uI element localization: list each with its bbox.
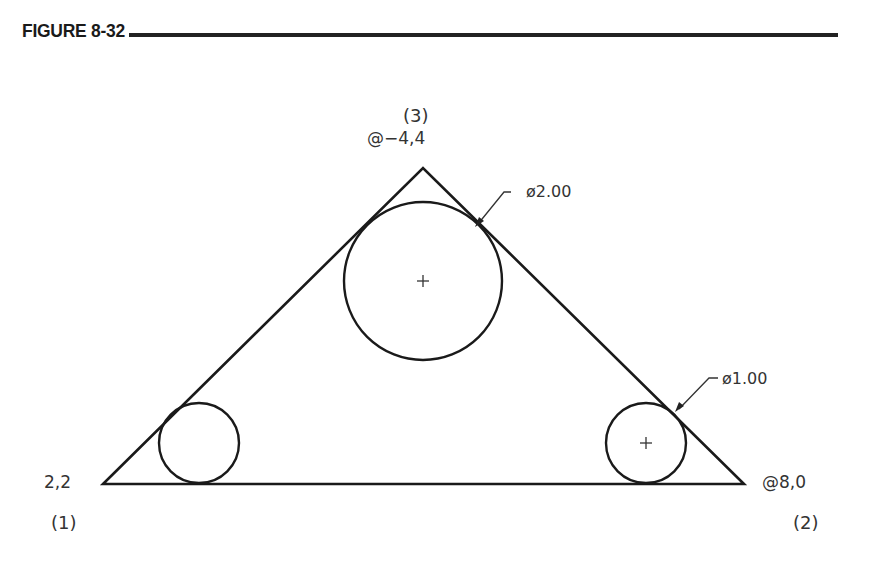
left-small-circle <box>159 403 239 483</box>
triangle <box>103 168 744 484</box>
drawing-canvas <box>0 0 878 583</box>
point1-number: (1) <box>51 512 77 533</box>
arrowhead-small-icon <box>675 402 684 412</box>
point2-number: (2) <box>793 512 819 533</box>
leader-small <box>679 378 718 409</box>
point1-coord: 2,2 <box>44 472 71 492</box>
point3-coord: @−4,4 <box>367 128 425 148</box>
leader-large <box>478 192 511 224</box>
point3-number: (3) <box>403 105 429 126</box>
large-circle-center-mark <box>417 275 429 287</box>
dim-small-label: ø1.00 <box>722 369 767 388</box>
right-small-circle-center-mark <box>640 437 652 449</box>
point2-coord: @8,0 <box>762 472 806 492</box>
dim-large-label: ø2.00 <box>526 182 571 201</box>
